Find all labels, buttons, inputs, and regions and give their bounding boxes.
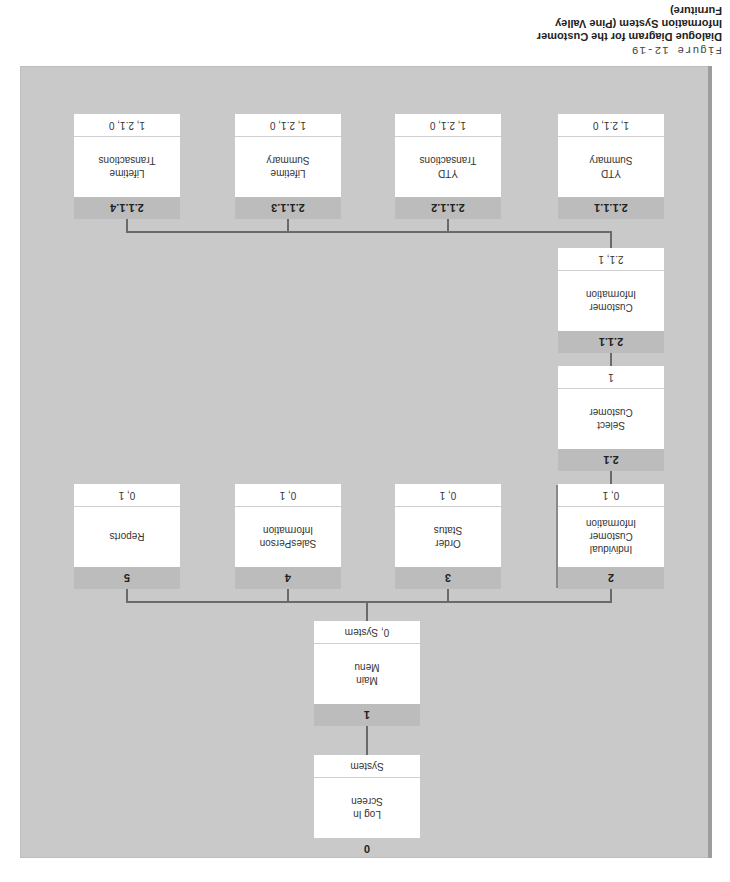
node-number: 4 [235, 567, 341, 589]
node-ytd-transactions: 2.1.1.2 YTD Transactions 1, 2.1, 0 [395, 114, 501, 219]
node-label: Order Status [395, 507, 501, 567]
node-footer: 1, 2.1, 0 [395, 114, 501, 137]
node-footer: System [314, 755, 420, 778]
node-number: 5 [74, 567, 180, 589]
edge-2.1.1-2.1.1.2 [447, 219, 449, 233]
node-salesperson-information: 4 SalesPerson Information 0, 1 [235, 484, 341, 589]
node-ytd-summary: 2.1.1.1 YTD Summary 1, 2.1, 0 [558, 114, 664, 219]
figure-label: Figure 12-19 [522, 43, 722, 56]
edge-2.1-2.1.1 [610, 353, 612, 367]
node-number: 2.1.1.1 [558, 197, 664, 219]
edge-2.1.1-2.1.1.3 [287, 219, 289, 233]
node-label: Select Customer [558, 389, 664, 449]
node-number: 1 [314, 704, 420, 726]
node-footer: 0, 1 [558, 484, 664, 507]
figure-title: Dialogue Diagram for the Customer Inform… [522, 4, 722, 43]
node-label: Individual Customer Information [558, 507, 664, 567]
edge-1-2 [610, 588, 612, 603]
node-footer: 0, System [314, 621, 420, 644]
node-log-in-screen: 0 Log In Screen System [314, 755, 420, 860]
node-reports: 5 Reports 0, 1 [74, 484, 180, 589]
edge-1-3 [447, 588, 449, 603]
node-label: Main Menu [314, 644, 420, 704]
edge-level2-bus [126, 601, 612, 603]
edge-2.1.1-2.1.1.4 [126, 219, 128, 233]
node-order-status: 3 Order Status 0, 1 [395, 484, 501, 589]
node-footer: 0, 1 [395, 484, 501, 507]
node-label: Log In Screen [314, 778, 420, 838]
node-select-customer: 2.1 Select Customer 1 [558, 366, 664, 471]
node-number: 0 [314, 838, 420, 860]
node-lifetime-summary: 2.1.1.3 Lifetime Summary 1, 2.1, 0 [235, 114, 341, 219]
node-individual-customer-information: 2 Individual Customer Information 0, 1 [558, 484, 664, 589]
node-label: YTD Transactions [395, 137, 501, 197]
node-label: Lifetime Summary [235, 137, 341, 197]
node-footer: 1, 2.1, 0 [235, 114, 341, 137]
node-footer: 1, 2.1, 0 [74, 114, 180, 137]
node-number: 3 [395, 567, 501, 589]
edge-level4-bus [126, 231, 612, 233]
node-label: Customer Information [558, 271, 664, 331]
edge-0-1 [366, 726, 368, 756]
node-number: 2.1.1 [558, 331, 664, 353]
edge-2-2.1 [610, 471, 612, 485]
node-number: 2.1.1.2 [395, 197, 501, 219]
node-footer: 1, 2.1, 0 [558, 114, 664, 137]
figure-caption: Figure 12-19 Dialogue Diagram for the Cu… [522, 4, 722, 56]
node-number: 2.1 [558, 449, 664, 471]
node-label: YTD Summary [558, 137, 664, 197]
node-label: Reports [74, 507, 180, 567]
node-label: Lifetime Transactions [74, 137, 180, 197]
node-label: SalesPerson Information [235, 507, 341, 567]
edge-1-5 [126, 588, 128, 603]
node-lifetime-transactions: 2.1.1.4 Lifetime Transactions 1, 2.1, 0 [74, 114, 180, 219]
node-number: 2 [558, 567, 664, 589]
node-main-menu: 1 Main Menu 0, System [314, 621, 420, 726]
edge-2.1.1-stem [610, 232, 612, 249]
panel-edge-shadow [708, 66, 712, 858]
edge-1-to-level2-stem [366, 602, 368, 622]
edge-1-4 [287, 588, 289, 603]
node-number: 2.1.1.3 [235, 197, 341, 219]
node-footer: 1 [558, 366, 664, 389]
node-footer: 2.1, 1 [558, 248, 664, 271]
diagram-stage: 0 Log In Screen System 1 Main Menu 0, Sy… [0, 0, 730, 882]
node-footer: 0, 1 [235, 484, 341, 507]
node-customer-information: 2.1.1 Customer Information 2.1, 1 [558, 248, 664, 353]
node-footer: 0, 1 [74, 484, 180, 507]
node-number: 2.1.1.4 [74, 197, 180, 219]
